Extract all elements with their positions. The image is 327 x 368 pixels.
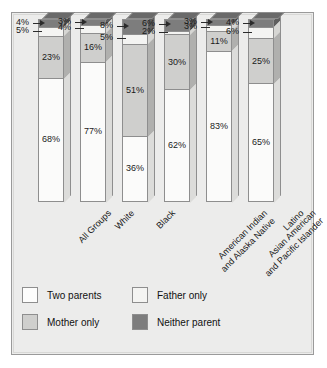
bar-segment-father[interactable] <box>249 27 273 38</box>
legend-item-two-parents[interactable]: Two parents <box>22 287 132 303</box>
bar-value-label-mother: 51% <box>126 86 144 95</box>
bar-segment-two[interactable]: 77% <box>81 62 105 201</box>
legend-row: Mother only Neither parent <box>22 314 292 330</box>
callout-label-father-1: 5% <box>16 26 29 35</box>
legend-swatch-neither-parent <box>132 314 148 330</box>
callout-label-father-6: 6% <box>226 27 239 36</box>
legend-item-mother-only[interactable]: Mother only <box>22 314 132 330</box>
legend-item-neither-parent[interactable]: Neither parent <box>132 314 220 330</box>
bar-side-segment-two <box>190 84 196 203</box>
callout-leader-line-father-3 <box>117 38 126 39</box>
bar-group: 16%77% <box>80 19 113 202</box>
bar-side-segment-mother <box>64 30 70 78</box>
callout-arrow-neither-6 <box>250 20 255 26</box>
callout-leader-line-father-5 <box>201 27 210 28</box>
chart-root: 23%68%4%5%16%77%3%4%51%36%8%5%30%62%6%2%… <box>0 0 327 368</box>
callout-leader-line-father-2 <box>75 28 84 29</box>
legend-row: Two parents Father only <box>22 287 292 303</box>
bar-value-label-two: 62% <box>168 141 186 150</box>
bar-segment-two[interactable]: 83% <box>207 51 231 201</box>
bar-segment-two[interactable]: 62% <box>165 89 189 201</box>
bar-side-segment-mother <box>274 32 280 84</box>
bar-value-label-mother: 23% <box>42 53 60 62</box>
bar-value-label-two: 36% <box>126 164 144 173</box>
bar-4[interactable]: 30%62% <box>164 19 190 202</box>
chart-legend: Two parents Father only Mother only Neit… <box>22 287 292 341</box>
bar-2[interactable]: 16%77% <box>80 19 106 202</box>
callout-arrow-neither-5 <box>208 19 213 25</box>
bar-side-segment-two <box>232 45 238 203</box>
bar-3[interactable]: 51%36% <box>122 19 148 202</box>
callout-label-father-5: 3% <box>184 22 197 31</box>
bar-group: 30%62% <box>164 19 197 202</box>
bar-group: 25%65% <box>248 19 281 202</box>
bar-6[interactable]: 25%65% <box>248 19 274 202</box>
legend-label-neither-parent: Neither parent <box>157 317 220 328</box>
legend-swatch-two-parents <box>22 287 38 303</box>
bar-group: 11%83% <box>206 19 239 202</box>
bar-segment-mother[interactable]: 30% <box>165 34 189 88</box>
callout-label-neither-3: 8% <box>100 21 113 30</box>
bar-segment-mother[interactable]: 25% <box>249 38 273 83</box>
bar-side-segment-two <box>64 73 70 203</box>
callout-arrow-neither-4 <box>166 21 171 27</box>
legend-item-father-only[interactable]: Father only <box>132 287 207 303</box>
bar-value-label-mother: 11% <box>210 37 227 46</box>
bar-segment-mother[interactable]: 23% <box>39 36 63 78</box>
callout-leader-line-father-6 <box>243 32 252 33</box>
bar-value-label-two: 68% <box>42 135 60 144</box>
bar-side-segment-two <box>274 78 280 203</box>
plot-area: 23%68%4%5%16%77%3%4%51%36%8%5%30%62%6%2%… <box>11 12 314 212</box>
callout-label-father-3: 5% <box>100 33 113 42</box>
callout-arrow-neither-1 <box>40 20 45 26</box>
bar-side-segment-mother <box>190 29 196 90</box>
bar-value-label-mother: 30% <box>168 58 186 67</box>
bar-value-label-mother: 25% <box>252 57 270 66</box>
bar-side-segment-two <box>148 131 154 203</box>
legend-label-father-only: Father only <box>157 290 207 301</box>
legend-swatch-mother-only <box>22 314 38 330</box>
bar-side-segment-two <box>106 56 112 203</box>
bar-5[interactable]: 11%83% <box>206 19 232 202</box>
bar-segment-mother[interactable]: 51% <box>123 44 147 136</box>
bar-segment-two[interactable]: 68% <box>39 78 63 201</box>
bar-segment-two[interactable]: 65% <box>249 83 273 201</box>
bar-side-face <box>148 12 155 202</box>
bar-segment-two[interactable]: 36% <box>123 136 147 201</box>
bar-side-face <box>64 12 71 202</box>
callout-arrow-neither-3 <box>124 23 129 29</box>
bar-value-label-two: 77% <box>84 127 102 136</box>
bar-side-face <box>232 12 239 202</box>
legend-label-mother-only: Mother only <box>47 317 99 328</box>
bar-value-label-two: 65% <box>252 138 270 147</box>
bar-value-label-two: 83% <box>210 122 228 131</box>
legend-swatch-father-only <box>132 287 148 303</box>
bar-side-segment-mother <box>148 38 154 137</box>
bar-side-face <box>274 12 281 202</box>
bar-side-face <box>190 12 197 202</box>
bar-1[interactable]: 23%68% <box>38 19 64 202</box>
callout-leader-line-father-4 <box>159 32 168 33</box>
callout-label-father-4: 2% <box>142 27 155 36</box>
callout-label-father-2: 4% <box>58 23 71 32</box>
bar-group: 51%36% <box>122 19 155 202</box>
bar-value-label-mother: 16% <box>84 43 102 52</box>
callout-leader-line-father-1 <box>33 31 42 32</box>
bar-segment-father[interactable] <box>123 34 147 43</box>
callout-arrow-neither-2 <box>82 19 87 25</box>
bar-group: 23%68% <box>38 19 71 202</box>
legend-label-two-parents: Two parents <box>47 290 101 301</box>
